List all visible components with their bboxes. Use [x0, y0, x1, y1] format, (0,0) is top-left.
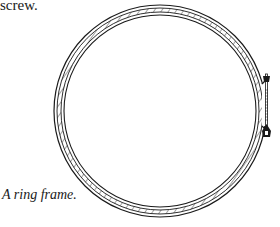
figure-caption: A ring frame.	[2, 187, 77, 203]
hatched-band	[57, 8, 263, 214]
inner-hoop	[61, 12, 259, 210]
outer-hoop	[54, 5, 266, 217]
